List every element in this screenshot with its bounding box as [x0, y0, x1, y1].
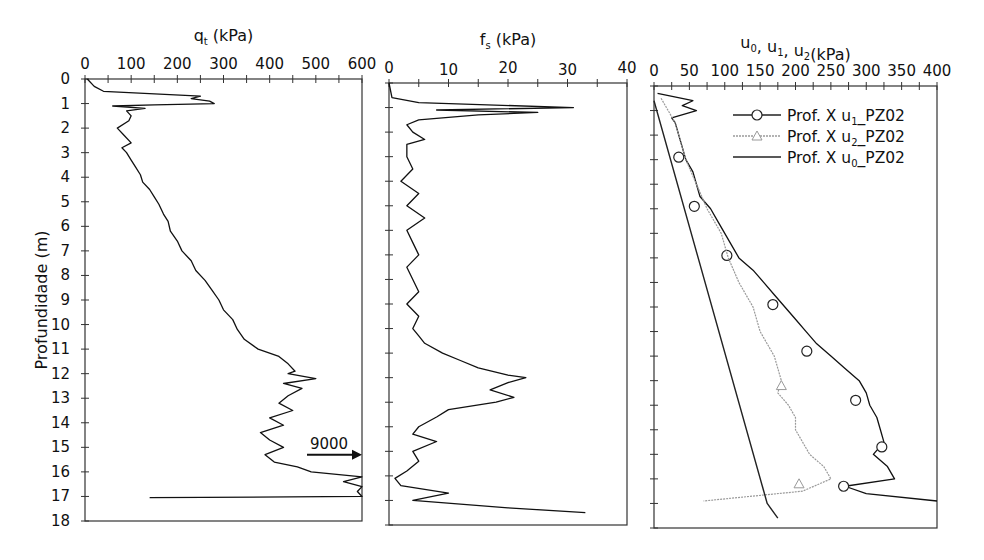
- panel-title: fs (kPa): [480, 30, 536, 51]
- x-tick-label: 10: [439, 61, 458, 79]
- x-tick-label: 500: [302, 55, 331, 73]
- x-tick-label: 600: [348, 55, 377, 73]
- x-tick-label: 0: [80, 55, 90, 73]
- depth-tick-label: 10: [51, 316, 70, 334]
- x-tick-label: 350: [887, 62, 916, 80]
- circle-marker: [722, 250, 732, 260]
- circle-marker: [674, 152, 684, 162]
- depth-tick-label: 4: [60, 168, 70, 186]
- panel-title: qt (kPa): [194, 26, 254, 47]
- depth-tick-label: 3: [60, 144, 70, 162]
- panel-title: u0, u1, u2(kPa): [740, 33, 850, 64]
- circle-marker: [839, 481, 849, 491]
- circle-marker: [802, 346, 812, 356]
- x-tick-label: 250: [817, 62, 846, 80]
- depth-tick-label: 5: [60, 193, 70, 211]
- x-tick-label: 40: [617, 59, 636, 77]
- depth-tick-label: 9: [60, 291, 70, 309]
- depth-tick-label: 7: [60, 242, 70, 260]
- depth-tick-label: 15: [51, 438, 70, 456]
- depth-tick-label: 12: [51, 365, 70, 383]
- depth-tick-label: 13: [51, 389, 70, 407]
- triangle-marker: [794, 479, 804, 488]
- legend-label: Prof. X u0_PZ02: [787, 149, 905, 169]
- x-tick-label: 20: [498, 59, 517, 77]
- depth-tick-label: 1: [60, 95, 70, 113]
- legend: Prof. X u1_PZ02Prof. X u2_PZ02Prof. X u0…: [733, 107, 905, 169]
- x-tick-label: 200: [781, 62, 810, 80]
- depth-tick-label: 11: [51, 340, 70, 358]
- circle-marker: [768, 300, 778, 310]
- arrow-right-icon: [352, 450, 362, 460]
- legend-label: Prof. X u2_PZ02: [787, 128, 905, 148]
- x-tick-label: 30: [558, 61, 577, 79]
- circle-marker: [851, 395, 861, 405]
- x-tick-label: 300: [209, 55, 238, 73]
- series-line: [654, 101, 778, 518]
- legend-label: Prof. X u1_PZ02: [787, 107, 905, 127]
- x-tick-label: 50: [680, 62, 699, 80]
- depth-tick-label: 8: [60, 266, 70, 284]
- x-tick-label: 200: [163, 55, 192, 73]
- depth-tick-label: 14: [51, 414, 70, 432]
- circle-marker: [877, 442, 887, 452]
- triangle-marker: [776, 381, 786, 390]
- depth-tick-label: 17: [51, 487, 70, 505]
- x-tick-label: 400: [255, 55, 284, 73]
- x-tick-label: 100: [117, 55, 146, 73]
- x-tick-label: 100: [710, 62, 739, 80]
- depth-tick-label: 0: [60, 70, 70, 88]
- depth-tick-label: 16: [51, 463, 70, 481]
- x-tick-label: 0: [384, 59, 394, 77]
- circle-marker: [689, 201, 699, 211]
- x-tick-label: 150: [746, 62, 775, 80]
- depth-axis-labels: 0123456789101112131415161718: [51, 70, 70, 530]
- x-tick-label: 300: [852, 62, 881, 80]
- series-line: [389, 83, 585, 513]
- x-tick-label: 0: [649, 62, 659, 80]
- fs-panel: 010203040fs (kPa): [384, 30, 636, 525]
- x-tick-label: 400: [923, 62, 952, 80]
- cpt-profile-chart: 0123456789101112131415161718 Profundidad…: [0, 0, 984, 560]
- qt-panel: 0100200300400500600qt (kPa)9000: [80, 26, 376, 521]
- depth-tick-label: 2: [60, 119, 70, 137]
- annotation-label: 9000: [310, 435, 348, 453]
- depth-tick-label: 6: [60, 217, 70, 235]
- depth-tick-label: 18: [51, 512, 70, 530]
- circle-marker-icon: [752, 110, 762, 120]
- plot-frame: [389, 83, 627, 525]
- y-axis-title: Profundidade (m): [32, 230, 51, 369]
